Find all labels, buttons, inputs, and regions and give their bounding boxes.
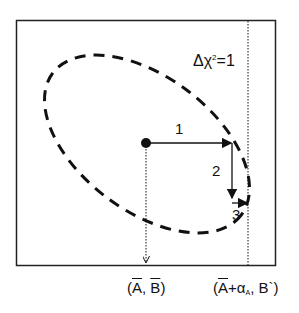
paren: ) xyxy=(273,279,278,296)
contour-label: Δχ2=1 xyxy=(193,52,235,70)
best-fit-point xyxy=(141,138,151,148)
b-term: , B xyxy=(250,279,268,296)
x-label-bound: (A+αA, B`) xyxy=(213,279,278,296)
contour-value: =1 xyxy=(217,52,235,69)
diagram-canvas xyxy=(0,0,299,313)
a-mean: A xyxy=(132,279,142,296)
alpha-term: +α xyxy=(228,279,245,296)
step-2-label: 2 xyxy=(212,162,220,179)
a-mean: A xyxy=(218,279,228,296)
x-label-center: (A, B) xyxy=(127,279,165,296)
step-3-label: 3 xyxy=(232,206,240,223)
delta-symbol: Δ xyxy=(193,52,204,69)
b-mean: B xyxy=(150,279,160,296)
paren: ) xyxy=(160,279,165,296)
chi-symbol: χ xyxy=(204,52,212,69)
step-1-label: 1 xyxy=(175,120,183,137)
